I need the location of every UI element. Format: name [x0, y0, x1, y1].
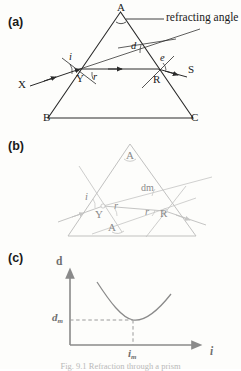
label-point-r-b: R [160, 208, 167, 219]
panel-b-tag: (b) [8, 140, 24, 153]
figure-caption: Fig. 9.1 Refraction through a prism [0, 361, 241, 371]
label-base-b-a: B [43, 112, 50, 123]
refracted-ray-b [103, 206, 165, 211]
dm-tick-label-c: dm [52, 312, 63, 323]
panel-b-min-deviation [58, 144, 212, 237]
label-angle-r-a: r [93, 72, 97, 83]
dm-tick-subscript: m [58, 317, 63, 325]
deviation-curve-c [97, 282, 171, 320]
label-point-y-a: Y [76, 73, 84, 84]
emergent-ray-arrowhead-b [176, 215, 190, 220]
label-angle-e-a: e [160, 53, 165, 64]
label-point-r-a: R [153, 74, 160, 85]
refracting-angle-annotation: refracting angle [166, 12, 238, 24]
panel-c-tag: (c) [8, 252, 23, 265]
im-tick-subscript: m [131, 353, 136, 361]
label-angle-d-a: d [131, 41, 136, 52]
im-tick-label-c: im [128, 348, 137, 359]
emergent-ray-arrowhead-a [165, 71, 178, 75]
refracting-angle-arc-a [116, 22, 126, 24]
label-angle-i-a: i [69, 52, 72, 63]
produced-incident-ray-b [103, 177, 212, 206]
angle-i-arc-b [93, 199, 95, 208]
panel-c-graph [70, 270, 200, 345]
label-incident-ray-x: X [18, 79, 26, 90]
label-point-y-b: Y [95, 209, 103, 220]
label-angle-r-left-b: r [114, 201, 118, 212]
label-apex-a: A [117, 2, 125, 13]
prism-triangle-a [48, 12, 193, 118]
x-axis-label-c: i [210, 346, 213, 358]
panel-a-tag: (a) [8, 16, 23, 29]
label-apex-angle-b: A [126, 150, 134, 161]
panel-a-prism [30, 12, 200, 118]
label-base-c-a: C [191, 112, 198, 123]
label-min-deviation-b: dm [141, 183, 154, 193]
y-axis-label-c: d [56, 256, 62, 268]
label-angle-i-b: i [85, 192, 88, 203]
label-prism-angle-b: A [108, 222, 116, 233]
label-emergent-ray-s: S [188, 64, 194, 75]
label-angle-r-right-b: r [145, 207, 149, 218]
incident-ray-arrowhead-a [44, 77, 56, 81]
dm-tick-symbol: d [52, 311, 58, 323]
